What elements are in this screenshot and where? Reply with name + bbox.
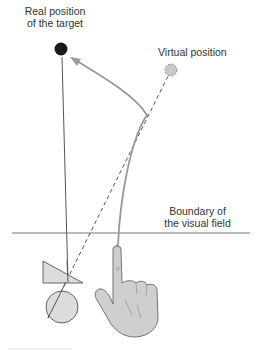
diagram-canvas [0,0,259,351]
line-of-sight-to-real-target [62,57,68,282]
hand-icon [95,246,158,338]
arrowhead-icon [70,57,81,66]
eye-circle [46,291,78,323]
virtual-target-dot [165,64,177,76]
pointing-trajectory-arrow [72,58,147,245]
prism-triangle [43,261,83,283]
real-target-dot [55,43,68,56]
pointing-hand [95,246,158,338]
